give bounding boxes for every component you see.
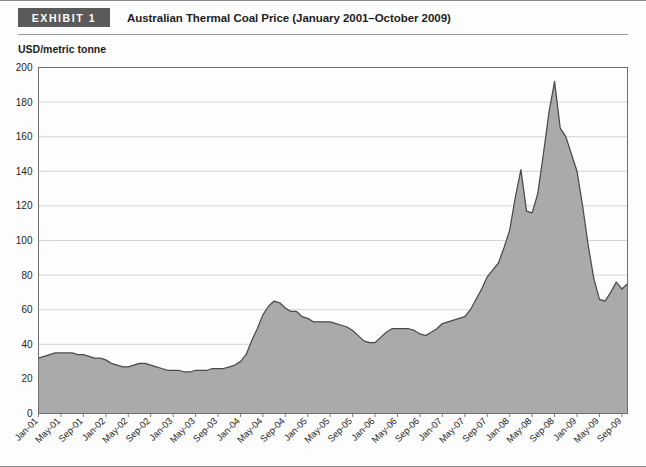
price-area-series (39, 81, 628, 413)
svg-text:May-07: May-07 (437, 416, 466, 445)
svg-text:140: 140 (16, 166, 33, 177)
svg-text:May-04: May-04 (235, 416, 264, 445)
x-axis-ticks (39, 414, 622, 418)
svg-text:Sep-04: Sep-04 (258, 416, 286, 444)
exhibit-figure: EXHIBIT 1 Australian Thermal Coal Price … (0, 0, 646, 467)
chart-svg: 020406080100120140160180200 Jan-01May-01… (0, 1, 646, 467)
svg-text:Sep-03: Sep-03 (191, 416, 219, 444)
coal-price-area-chart: 020406080100120140160180200 Jan-01May-01… (0, 1, 646, 467)
svg-text:May-03: May-03 (168, 416, 197, 445)
svg-text:Sep-08: Sep-08 (528, 416, 556, 444)
svg-text:May-05: May-05 (303, 416, 332, 445)
svg-text:100: 100 (16, 235, 33, 246)
svg-text:40: 40 (21, 339, 33, 350)
y-axis-tick-labels: 020406080100120140160180200 (16, 62, 33, 419)
svg-text:120: 120 (16, 200, 33, 211)
svg-text:Sep-01: Sep-01 (57, 416, 85, 444)
svg-text:80: 80 (21, 270, 33, 281)
svg-text:May-01: May-01 (33, 416, 62, 445)
svg-text:60: 60 (21, 304, 33, 315)
svg-text:200: 200 (16, 62, 33, 73)
svg-text:Sep-07: Sep-07 (460, 416, 488, 444)
x-axis-tick-labels: Jan-01May-01Sep-01Jan-02May-02Sep-02Jan-… (13, 416, 624, 445)
svg-text:20: 20 (21, 373, 33, 384)
svg-text:May-09: May-09 (572, 416, 601, 445)
svg-text:Sep-02: Sep-02 (124, 416, 152, 444)
svg-text:Sep-05: Sep-05 (326, 416, 354, 444)
svg-text:May-06: May-06 (370, 416, 399, 445)
svg-text:160: 160 (16, 131, 33, 142)
svg-text:May-02: May-02 (101, 416, 130, 445)
svg-text:May-08: May-08 (505, 416, 534, 445)
svg-text:180: 180 (16, 97, 33, 108)
svg-text:Sep-06: Sep-06 (393, 416, 421, 444)
svg-text:Sep-09: Sep-09 (595, 416, 623, 444)
